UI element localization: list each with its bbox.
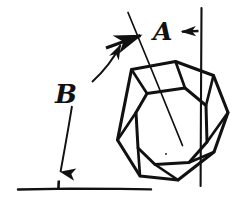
- horizontal-baseline: [18, 189, 151, 190]
- crystal-figure: A B: [0, 0, 248, 206]
- arrow-a-left: [182, 31, 199, 32]
- figure-canvas: A B: [0, 0, 248, 206]
- ink-speck: [165, 153, 167, 155]
- angle-a-label: A: [151, 17, 172, 46]
- vertical-reference-line: [201, 8, 202, 186]
- angle-b-label: B: [54, 79, 77, 109]
